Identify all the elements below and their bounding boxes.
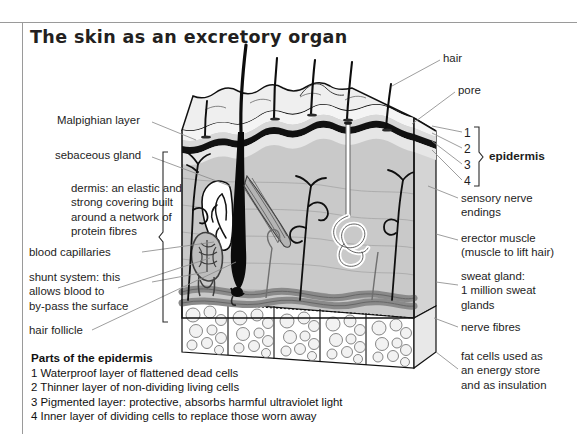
epidermis-number-2: 2	[464, 142, 471, 156]
label-fat-cells: fat cells used as an energy store and as…	[461, 349, 547, 392]
label-pore: pore	[458, 83, 481, 97]
label-hair: hair	[443, 51, 462, 65]
label-sweat-gland: sweat gland: 1 million sweat glands	[461, 269, 536, 312]
label-hair-follicle: hair follicle	[29, 323, 83, 337]
label-epidermis: epidermis	[489, 149, 545, 163]
page-root: The skin as an excretory organ	[0, 0, 577, 434]
label-blood-capillaries: blood capillaries	[29, 245, 111, 259]
legend-heading: Parts of the epidermis	[31, 351, 343, 366]
legend-item-1: 1 Waterproof layer of flattened dead cel…	[31, 366, 343, 381]
legend-item-3: 3 Pigmented layer: protective, absorbs h…	[31, 395, 343, 410]
epidermis-number-3: 3	[464, 158, 471, 172]
epidermis-parts-legend: Parts of the epidermis 1 Waterproof laye…	[31, 351, 343, 424]
label-sensory-nerve-endings: sensory nerve endings	[461, 191, 533, 220]
epidermis-number-1: 1	[464, 126, 471, 140]
right-side-face	[414, 118, 436, 318]
label-malpighian-layer: Malpighian layer	[57, 113, 140, 127]
legend-item-4: 4 Inner layer of dividing cells to repla…	[31, 409, 343, 424]
label-erector-muscle: erector muscle (muscle to lift hair)	[461, 231, 554, 260]
epidermis-number-4: 4	[464, 174, 471, 188]
legend-item-2: 2 Thinner layer of non-dividing living c…	[31, 380, 343, 395]
label-nerve-fibres: nerve fibres	[461, 320, 521, 334]
label-dermis: dermis: an elastic and strong covering b…	[71, 181, 182, 238]
label-sebaceous-gland: sebaceous gland	[55, 148, 141, 162]
label-shunt-system: shunt system: this allows blood to by-pa…	[29, 270, 128, 313]
